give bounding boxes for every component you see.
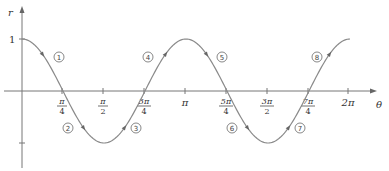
- x-tick-label-pi-4: π 4: [57, 97, 67, 116]
- svg-text:2: 2: [264, 107, 269, 116]
- svg-text:π: π: [58, 97, 65, 106]
- svg-text:6: 6: [230, 125, 235, 133]
- x-axis-arrow-icon: [370, 89, 377, 94]
- segment-label-7: 7: [295, 123, 305, 133]
- svg-text:4: 4: [59, 107, 64, 116]
- segment-label-1: 1: [54, 52, 64, 62]
- svg-text:5: 5: [220, 54, 224, 62]
- svg-text:4: 4: [223, 107, 228, 116]
- segment-label-2: 2: [63, 123, 73, 133]
- svg-text:3π: 3π: [139, 97, 150, 106]
- x-tick-label-7pi-4: 7π 4: [301, 97, 315, 116]
- svg-text:8: 8: [315, 54, 319, 62]
- svg-text:4: 4: [305, 107, 310, 116]
- y-axis-label: r: [8, 7, 14, 18]
- segment-label-6: 6: [227, 123, 237, 133]
- y-axis-arrow-icon: [20, 6, 25, 13]
- x-axis-label: θ: [376, 99, 382, 110]
- segment-label-8: 8: [312, 52, 322, 62]
- svg-text:4: 4: [141, 107, 146, 116]
- svg-text:4: 4: [146, 54, 151, 62]
- polar-graph-cartesian-plot: r θ 1 π 4 π 2 3π 4 π 5π 4 3π 2: [0, 0, 389, 171]
- segment-label-3: 3: [131, 123, 141, 133]
- svg-text:7π: 7π: [303, 97, 314, 106]
- x-tick-label-pi: π: [181, 97, 189, 108]
- segment-label-4: 4: [143, 52, 153, 62]
- svg-text:3π: 3π: [262, 97, 273, 106]
- x-tick-label-3pi-2: 3π 2: [260, 97, 274, 116]
- svg-text:π: π: [99, 97, 106, 106]
- svg-text:7: 7: [298, 125, 302, 133]
- y-tick-label-1: 1: [9, 34, 15, 45]
- x-tick-label-3pi-4: 3π 4: [137, 97, 151, 116]
- svg-text:2: 2: [66, 125, 70, 133]
- x-tick-label-2pi: 2π: [341, 97, 355, 108]
- svg-text:1: 1: [57, 54, 61, 62]
- segment-label-5: 5: [217, 52, 227, 62]
- x-tick-label-pi-2: π 2: [98, 97, 108, 116]
- svg-text:2: 2: [100, 107, 105, 116]
- svg-text:3: 3: [134, 125, 138, 133]
